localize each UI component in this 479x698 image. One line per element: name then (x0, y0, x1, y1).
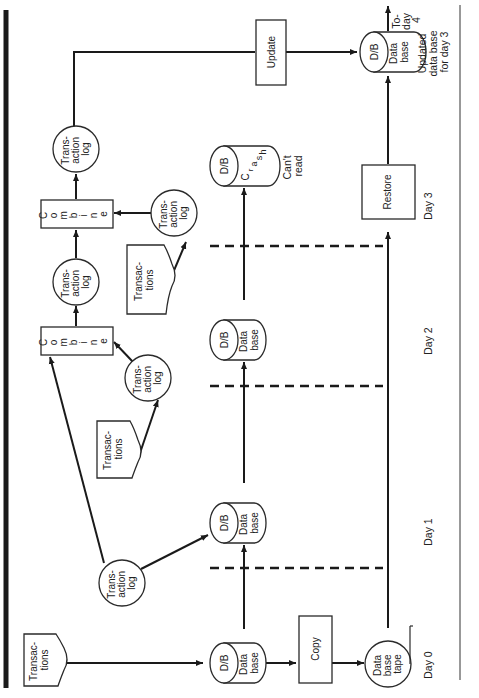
node-txlog-day1: Trans- action log (125, 355, 171, 401)
node-txlog-combined-1: Trans- action log (53, 259, 99, 305)
label-day-2: Day 2 (422, 327, 434, 355)
node-transactions-day0: Transac- tions (24, 634, 67, 686)
node-transactions-day2: Transac- tions (127, 245, 175, 314)
svg-text:s: s (254, 155, 264, 160)
edge-txlog1-to-combine1 (114, 342, 133, 362)
combine-2-text: C o m b i n e (38, 208, 109, 219)
edge-transactions1-to-txlog1 (140, 400, 158, 453)
db-day0-text: Data base (238, 651, 260, 675)
svg-text:C: C (240, 173, 251, 180)
db-day0-cap: D/B (219, 654, 230, 671)
crash-note: Can't read (281, 152, 304, 179)
label-day-1: Day 1 (422, 518, 434, 546)
label-today-4: To- day 4 (390, 10, 422, 30)
diagram-canvas: Transac- tions D/B Data base Copy Data b… (0, 0, 479, 698)
node-db-day1: D/B Data base (210, 503, 266, 543)
db-day2-cap: D/B (219, 331, 230, 348)
svg-text:a: a (249, 161, 259, 166)
node-update: Update (256, 20, 286, 85)
svg-text:h: h (258, 149, 268, 154)
edge-txlog-to-update-a (74, 52, 255, 126)
node-copy: Copy (299, 616, 332, 683)
node-db-day0: D/B Data base (210, 643, 266, 683)
node-combine-1: C o m b i n e (38, 327, 113, 355)
label-day-0: Day 0 (422, 651, 434, 679)
label-day-3: Day 3 (422, 192, 434, 220)
node-txlog-combined-2: Trans- action log (53, 126, 99, 172)
node-restore: Restore (362, 165, 415, 219)
svg-text:r: r (246, 168, 255, 171)
node-txlog-day2: Trans- action log (151, 190, 197, 236)
db-updated-note: Updated data base for day 3 (416, 27, 450, 76)
db-day1-cap: D/B (219, 514, 230, 531)
db-updated-cap: D/B (369, 43, 380, 60)
tape-text: Data base tape (372, 652, 403, 676)
edge-txlog0-to-combine1 (50, 357, 104, 563)
node-db-day2: D/B Data base (210, 320, 266, 360)
db-updated-text: Data base (388, 40, 410, 64)
node-txlog-day0: Trans- action log (99, 560, 145, 606)
db-day2-text: Data base (238, 328, 260, 352)
copy-label: Copy (310, 637, 321, 660)
db-day1-text: Data base (238, 511, 260, 535)
node-db-updated: D/B Data base Updated data base for day … (360, 27, 450, 76)
restore-label: Restore (382, 174, 393, 209)
db-crash-cap: D/B (219, 157, 230, 174)
edge-txlog0-to-db1 (141, 535, 208, 569)
combine-1-text: C o m b i n e (38, 335, 109, 346)
node-tape: Data base tape (365, 626, 413, 687)
node-transactions-day1: Transac- tions (97, 421, 141, 478)
node-db-crash: D/B C r a s h Can't read (210, 146, 304, 186)
update-label: Update (266, 35, 277, 68)
node-combine-2: C o m b i n e (38, 200, 113, 228)
